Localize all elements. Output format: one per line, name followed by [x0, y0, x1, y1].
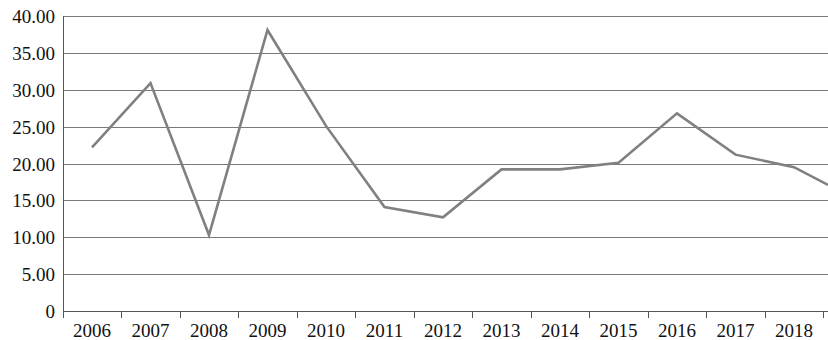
y-tick-label-25: 25.00 — [12, 117, 55, 138]
y-tick-label-20: 20.00 — [12, 154, 55, 175]
line-chart: 05.0010.0015.0020.0025.0030.0035.0040.00… — [0, 0, 828, 340]
x-tick-label-2012: 2012 — [424, 320, 462, 340]
y-tick-label-30: 30.00 — [12, 80, 55, 101]
x-tick-label-2018: 2018 — [775, 320, 813, 340]
x-tick-label-2007: 2007 — [132, 320, 170, 340]
y-tick-label-40: 40.00 — [12, 6, 55, 27]
chart-canvas: 05.0010.0015.0020.0025.0030.0035.0040.00… — [0, 0, 828, 340]
x-tick-label-2011: 2011 — [366, 320, 403, 340]
x-tick-label-2010: 2010 — [307, 320, 345, 340]
y-tick-label-35: 35.00 — [12, 43, 55, 64]
data-series-line — [92, 30, 828, 235]
x-tick-label-2017: 2017 — [717, 320, 755, 340]
x-tick-label-2014: 2014 — [541, 320, 580, 340]
x-tick-label-2009: 2009 — [249, 320, 287, 340]
y-tick-label-5: 5.00 — [22, 264, 55, 285]
x-axis-tick-labels: 2006200720082009201020112012201320142015… — [73, 320, 813, 340]
x-tick-label-2015: 2015 — [600, 320, 638, 340]
y-tick-label-0: 0 — [46, 301, 56, 322]
x-tick-label-2013: 2013 — [483, 320, 521, 340]
y-tick-label-10: 10.00 — [12, 227, 55, 248]
y-tick-label-15: 15.00 — [12, 190, 55, 211]
x-tick-label-2006: 2006 — [73, 320, 111, 340]
gridlines-group — [63, 17, 828, 275]
y-axis-tick-labels: 05.0010.0015.0020.0025.0030.0035.0040.00 — [12, 6, 55, 322]
x-tick-label-2008: 2008 — [190, 320, 228, 340]
x-tick-label-2016: 2016 — [658, 320, 696, 340]
